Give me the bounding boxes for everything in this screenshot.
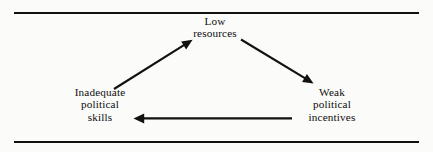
- node-inadequate-political-skills: Inadequate political skills: [50, 86, 150, 123]
- arrow-incentives-to-skills: [134, 113, 293, 123]
- node-inadequate-political-skills-line-2: political: [50, 98, 150, 110]
- diagram-figure: Low resources Inadequate political skill…: [0, 0, 433, 152]
- node-low-resources: Low resources: [165, 15, 265, 40]
- node-weak-political-incentives-line-1: Weak: [282, 86, 382, 98]
- node-weak-political-incentives-line-2: political: [282, 98, 382, 110]
- arrow-skills-to-resources: [114, 40, 193, 89]
- node-inadequate-political-skills-line-1: Inadequate: [50, 86, 150, 98]
- node-low-resources-line-1: Low: [165, 15, 265, 27]
- node-weak-political-incentives: Weak political incentives: [282, 86, 382, 123]
- node-low-resources-line-2: resources: [165, 27, 265, 39]
- arrow-resources-to-incentives: [241, 40, 314, 84]
- node-inadequate-political-skills-line-3: skills: [50, 111, 150, 123]
- bottom-divider-rule: [14, 141, 419, 143]
- node-weak-political-incentives-line-3: incentives: [282, 111, 382, 123]
